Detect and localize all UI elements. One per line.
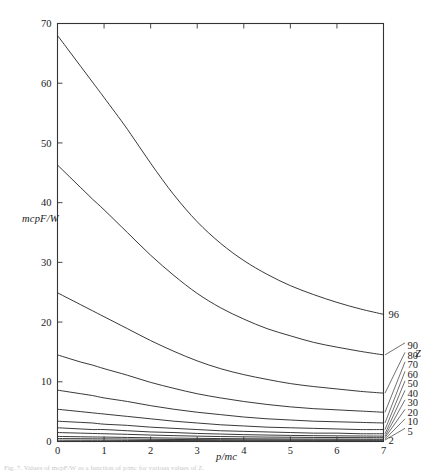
x-tick-label: 0 [55,445,60,456]
x-tick-label: 2 [148,445,153,456]
x-tick-label: 5 [288,445,293,456]
y-tick-label: 40 [41,197,52,208]
x-axis-title: p/mc [216,451,237,462]
y-tick-label: 0 [46,436,51,447]
y-axis-title: mcpF/W [22,213,59,224]
y-tick-label: 10 [41,376,52,387]
x-tick-label: 4 [241,445,247,456]
curve-z-60 [58,390,384,423]
y-tick-label: 20 [41,317,52,328]
x-tick-label: 7 [381,445,386,456]
z-label-leader-line [385,343,405,355]
z-label-leader-line [385,409,405,437]
curves-layer [58,35,384,440]
y-tick-label: 30 [41,257,52,268]
curve-z-50 [58,409,384,429]
x-tick-label: 3 [195,445,200,456]
figure-caption: Fig. 7. Values of mcpF/W as a function o… [4,464,444,472]
z-legend-title: Z [415,348,421,359]
chart-plot: 01234567010203040506070 9690807060504030… [0,0,446,474]
z-edge-label-96: 96 [389,309,400,320]
z-edge-label-5: 5 [408,426,413,437]
z-edge-label-2: 2 [389,435,394,446]
y-tick-label: 50 [41,138,52,149]
y-tick-label: 70 [41,18,52,29]
axes-layer [58,24,384,442]
curve-z-96 [58,35,384,314]
curve-z-40 [58,421,384,434]
figure-container: 01234567010203040506070 9690807060504030… [0,0,446,474]
x-tick-label: 6 [334,445,339,456]
plot-frame [58,24,384,442]
edge-labels-layer: 9690807060504030201052 [385,309,418,447]
x-tick-label: 1 [101,445,106,456]
y-tick-label: 60 [41,78,52,89]
curve-z-70 [58,355,384,412]
curve-z-90 [58,165,384,355]
